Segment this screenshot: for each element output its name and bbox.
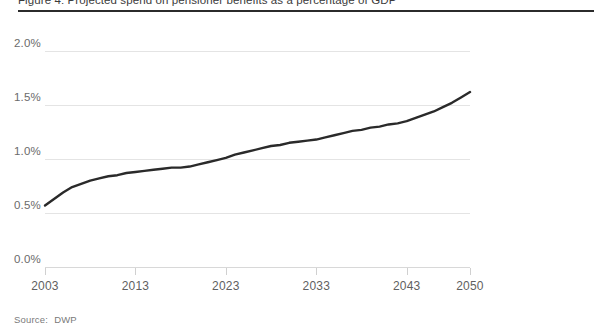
x-axis-tick-label: 2050: [440, 279, 500, 293]
gridline-y-1.5: [45, 105, 470, 106]
x-axis-tick-mark: [316, 268, 317, 275]
gridline-y-2.0: [45, 51, 470, 52]
y-axis-tick-label: 2.0%: [14, 37, 58, 49]
x-axis-tick-label: 2013: [105, 279, 165, 293]
gridline-y-0.5: [45, 213, 470, 214]
x-axis-tick-mark: [470, 268, 471, 275]
y-axis-tick-label: 1.0%: [14, 145, 58, 157]
x-axis-tick-label: 2023: [196, 279, 256, 293]
y-axis-tick-label: 1.5%: [14, 91, 58, 103]
y-axis-tick-label: 0.5%: [14, 199, 58, 211]
x-axis-tick-mark: [407, 268, 408, 275]
x-axis-tick-mark: [135, 268, 136, 275]
source-value: DWP: [54, 314, 77, 325]
x-axis-tick-label: 2033: [286, 279, 346, 293]
source-label: Source:: [14, 314, 48, 325]
y-axis-tick-label: 0.0%: [14, 253, 58, 265]
x-axis-tick-mark: [226, 268, 227, 275]
gridline-y-1.0: [45, 159, 470, 160]
x-axis-tick-mark: [45, 268, 46, 275]
x-axis-tick-label: 2003: [15, 279, 75, 293]
plot-area: 0.0%0.5%1.0%1.5%2.0%20032013202320332043…: [0, 0, 609, 334]
x-axis-tick-label: 2043: [377, 279, 437, 293]
figure-container: Figure 4: Projected spend on pensioner b…: [0, 0, 609, 334]
source-note: Source:DWP: [14, 314, 77, 325]
